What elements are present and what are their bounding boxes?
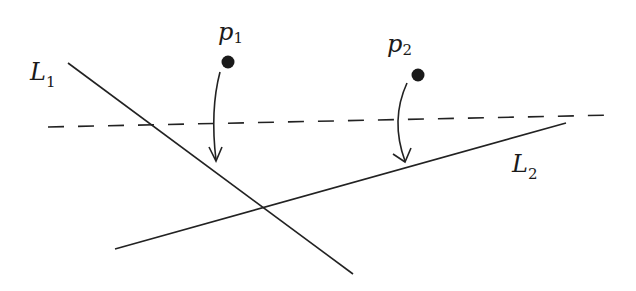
arrow-p1-to-l1 (209, 72, 222, 161)
arrow-p2-to-l2 (393, 83, 411, 162)
point-p2 (412, 69, 425, 82)
label-l2: L2 (511, 150, 537, 183)
diagram-canvas: L1 L2 p1 p2 (0, 0, 636, 291)
line-l1 (68, 63, 353, 274)
dashed-line (48, 115, 614, 127)
line-l2 (115, 123, 566, 249)
label-l1: L1 (29, 58, 55, 91)
label-p1: p1 (218, 18, 243, 47)
label-p2: p2 (387, 30, 412, 59)
point-p1 (222, 56, 235, 69)
